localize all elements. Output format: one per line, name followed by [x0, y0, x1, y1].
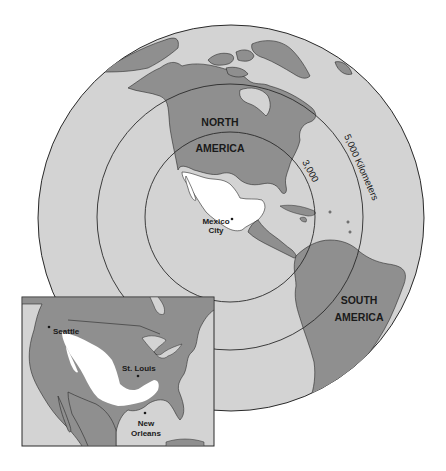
- label-mexico: Mexico: [202, 217, 229, 226]
- new-orleans-marker[interactable]: [144, 412, 147, 415]
- st-louis-marker[interactable]: [137, 375, 140, 378]
- label-seattle: Seattle: [53, 327, 80, 336]
- inset-map: Seattle St. Louis New Orleans: [22, 297, 214, 446]
- land-island: [349, 231, 351, 233]
- label-st-louis: St. Louis: [122, 364, 156, 373]
- label-america-north: AMERICA: [196, 142, 245, 154]
- label-new: New: [138, 419, 155, 428]
- land-island: [329, 211, 331, 213]
- label-america-south: AMERICA: [335, 311, 384, 323]
- label-south: SOUTH: [341, 294, 378, 306]
- label-city: City: [208, 226, 224, 235]
- label-orleans: Orleans: [131, 429, 161, 438]
- land-island: [347, 221, 349, 223]
- mexico-city-marker[interactable]: [231, 218, 234, 221]
- globe-map: NORTH AMERICA SOUTH AMERICA Mexico City …: [0, 0, 446, 471]
- seattle-marker[interactable]: [48, 326, 51, 329]
- label-north: NORTH: [201, 116, 238, 128]
